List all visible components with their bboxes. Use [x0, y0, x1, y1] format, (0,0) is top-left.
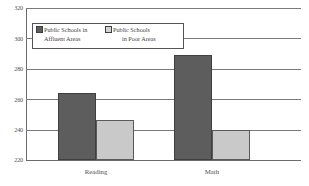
x-category-label-math: Math — [174, 168, 250, 175]
gridline-320 — [26, 8, 301, 9]
scan-edge — [0, 0, 309, 2]
legend-label-affluent-line1: Public Schools in — [44, 26, 87, 33]
y-tick-label-260: 260 — [0, 97, 23, 103]
y-tick-label-300: 300 — [0, 36, 23, 42]
x-category-label-reading: Reading — [58, 168, 134, 175]
legend-entry-affluent: Public Schools in Affluent Areas — [36, 26, 104, 43]
legend-entry-poor: Public Schools in Poor Areas — [105, 26, 183, 43]
gridline-280 — [26, 69, 301, 70]
legend-label-poor-line2: in Poor Areas — [105, 35, 183, 44]
bar-chart: 320 300 280 260 240 220 Reading Math Pub… — [0, 0, 309, 186]
legend-swatch-icon-affluent — [36, 26, 43, 33]
legend-label-affluent-line2: Affluent Areas — [36, 35, 104, 44]
bar-reading-poor — [96, 120, 134, 160]
y-tick-label-280: 280 — [0, 66, 23, 72]
gridline-220-baseline — [26, 160, 301, 161]
bar-reading-affluent — [58, 93, 96, 160]
bar-math-poor — [212, 130, 250, 160]
y-tick-label-320: 320 — [0, 5, 23, 11]
legend-line-1: Public Schools — [105, 26, 183, 35]
y-tick-label-220: 220 — [0, 157, 23, 163]
bar-math-affluent — [174, 55, 212, 160]
legend-swatch-icon-poor — [105, 26, 112, 33]
legend-label-poor-line1: Public Schools — [113, 26, 150, 33]
y-tick-label-240: 240 — [0, 127, 23, 133]
legend-line-1: Public Schools in — [36, 26, 104, 35]
legend: Public Schools in Affluent Areas Public … — [32, 23, 184, 49]
